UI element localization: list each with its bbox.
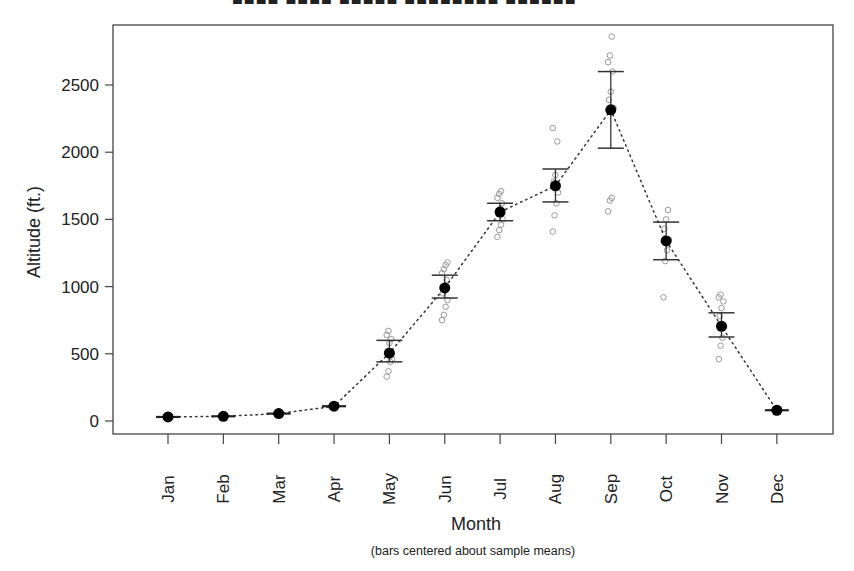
x-tick-label-sep: Sep: [602, 474, 621, 504]
observation-point: [384, 374, 390, 380]
observation-point: [552, 213, 558, 219]
y-axis-label: Altitude (ft.): [24, 186, 44, 278]
mean-markers: [163, 104, 783, 422]
y-tick-label: 0: [90, 412, 99, 431]
observation-point: [441, 312, 447, 318]
x-tick-label-nov: Nov: [713, 473, 732, 504]
mean-point-jun: [439, 282, 450, 293]
axis-labels: Altitude (ft.) Month (bars centered abou…: [24, 186, 575, 558]
mean-point-feb: [218, 411, 229, 422]
x-axis: JanFebMarAprMayJunJulAugSepOctNovDec: [159, 434, 787, 505]
observation-point: [550, 229, 556, 235]
y-tick-label: 1500: [61, 210, 99, 229]
observation-point: [439, 317, 445, 323]
observation-point: [496, 227, 502, 233]
observation-point: [607, 53, 613, 59]
error-bars: [156, 72, 789, 417]
observation-point: [554, 139, 560, 145]
mean-point-sep: [605, 104, 616, 115]
observation-point: [609, 34, 615, 40]
observation-point: [498, 222, 504, 228]
observation-point: [664, 248, 670, 254]
observation-point: [718, 343, 724, 349]
x-tick-label-jun: Jun: [436, 475, 455, 502]
x-tick-label-aug: Aug: [546, 474, 565, 504]
x-tick-label-jan: Jan: [159, 475, 178, 502]
plot-border: [113, 25, 833, 434]
x-tick-label-apr: Apr: [325, 475, 344, 502]
mean-point-aug: [550, 180, 561, 191]
observation-point: [605, 209, 611, 215]
mean-point-jan: [163, 411, 174, 422]
mean-point-may: [384, 348, 395, 359]
observation-point: [665, 207, 671, 213]
y-tick-label: 2000: [61, 143, 99, 162]
caption: (bars centered about sample means): [371, 544, 575, 558]
mean-point-dec: [771, 405, 782, 416]
x-tick-label-feb: Feb: [214, 474, 233, 503]
observation-point: [495, 234, 501, 240]
x-tick-label-dec: Dec: [768, 473, 787, 504]
mean-point-mar: [273, 408, 284, 419]
mean-point-oct: [661, 235, 672, 246]
x-tick-label-may: May: [380, 472, 399, 505]
observation-point: [661, 295, 667, 301]
y-tick-label: 500: [71, 345, 99, 364]
plot-frame: [113, 25, 833, 434]
y-tick-label: 1000: [61, 278, 99, 297]
observation-point: [605, 59, 611, 65]
mean-point-jul: [495, 207, 506, 218]
dotted-mean-line: [168, 110, 777, 417]
x-tick-label-mar: Mar: [270, 474, 289, 504]
chart-canvas: 05001000150020002500 JanFebMarAprMayJunJ…: [0, 0, 854, 571]
x-axis-label: Month: [451, 514, 501, 534]
observation-point: [716, 356, 722, 362]
mean-point-nov: [716, 321, 727, 332]
x-tick-label-jul: Jul: [491, 478, 510, 500]
observation-point: [386, 368, 392, 374]
mean-trend-line: [168, 110, 777, 417]
observation-point: [719, 305, 725, 311]
y-axis: 05001000150020002500: [61, 76, 113, 431]
observation-point: [550, 125, 556, 131]
observation-point: [443, 304, 449, 310]
mean-point-apr: [329, 401, 340, 412]
x-tick-label-oct: Oct: [657, 476, 676, 503]
y-tick-label: 2500: [61, 76, 99, 95]
